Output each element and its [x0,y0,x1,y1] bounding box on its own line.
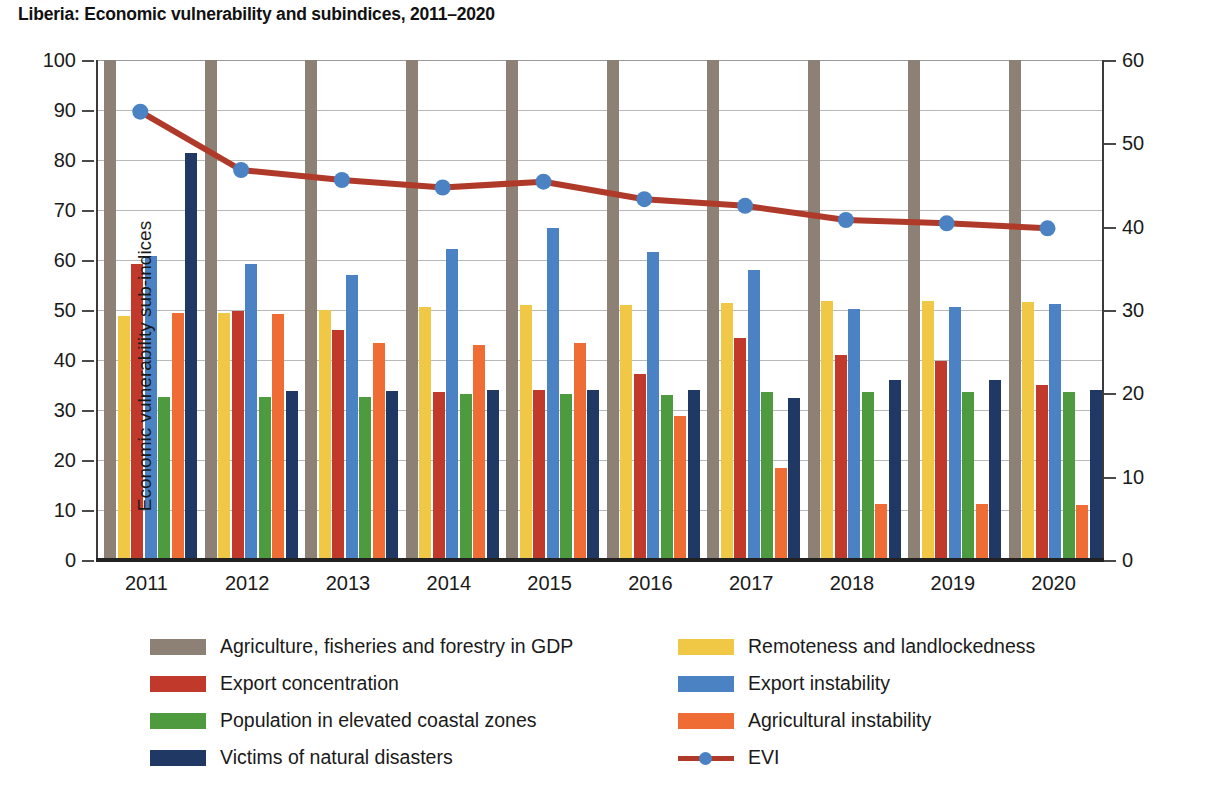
y-axis-tick-label-right: 30 [1122,300,1172,320]
bar [433,392,445,560]
y-axis-tick-label-left: 0 [16,550,76,570]
bar-group [1003,60,1104,560]
bar [460,394,472,560]
y-axis-tick-label-right: 40 [1122,217,1172,237]
bar [962,392,974,561]
y-axis-tick-label-left: 50 [16,300,76,320]
bar [688,390,700,560]
bar [185,153,197,560]
bar [419,307,431,561]
bar [835,355,847,561]
x-axis-tick-label: 2012 [197,572,298,608]
bar [158,397,170,560]
legend-label: Export concentration [220,672,399,695]
bar [1076,505,1088,561]
legend-label: Victims of natural disasters [220,746,453,769]
bar [386,391,398,561]
legend-label: Agriculture, fisheries and forestry in G… [220,635,573,658]
bar-group [802,60,903,560]
bar [634,374,646,561]
bar [674,416,686,560]
bar [1049,304,1061,561]
bar [232,311,244,561]
bar [286,391,298,561]
bar [305,60,317,560]
legend-item[interactable]: Population in elevated coastal zones [150,702,630,739]
bar [1036,385,1048,561]
x-axis-tick-label: 2014 [398,572,499,608]
y-axis-tick-label-right: 60 [1122,50,1172,70]
y-axis-tick-label-left: 20 [16,450,76,470]
bar-group [902,60,1003,560]
bar [259,397,271,560]
y-axis-tick-right [1104,560,1116,562]
plot-inner [98,60,1102,560]
y-axis-tick-left [82,560,94,562]
marker-dot-icon [699,752,712,765]
bar [359,397,371,560]
bar [734,338,746,560]
bar [406,60,418,560]
x-axis-baseline [96,558,1104,562]
x-axis-tick-label: 2011 [96,572,197,608]
bar [205,60,217,560]
legend-item[interactable]: Victims of natural disasters [150,739,630,776]
y-axis-tick-left [82,460,94,462]
bar [935,361,947,560]
bar [473,345,485,560]
legend-item[interactable]: Export instability [678,665,1158,702]
legend-label: Remoteness and landlockedness [748,635,1035,658]
bar [373,343,385,560]
y-axis-tick-right [1104,477,1116,479]
y-axis-tick-left [82,510,94,512]
bar [607,60,619,560]
y-axis-tick-left [82,360,94,362]
bar [748,270,760,561]
bar [560,394,572,560]
bar [976,504,988,560]
bar [775,468,787,560]
bar-group [701,60,802,560]
legend-item[interactable]: EVI [678,739,1158,776]
x-axis-labels: 2011201220132014201520162017201820192020 [96,572,1104,608]
y-axis-tick-label-right: 0 [1122,550,1172,570]
bar [908,60,920,560]
legend-label: EVI [748,746,779,769]
swatch-icon [150,750,206,766]
swatch-icon [678,639,734,655]
x-axis-tick-label: 2013 [298,572,399,608]
swatch-icon [678,676,734,692]
swatch-icon [150,639,206,655]
bar [661,395,673,561]
bar [821,301,833,560]
y-axis-tick-label-left: 80 [16,150,76,170]
legend-label: Population in elevated coastal zones [220,709,537,732]
bar [788,398,800,561]
legend-item[interactable]: Agricultural instability [678,702,1158,739]
swatch-icon [678,713,734,729]
y-axis-tick-right [1104,60,1116,62]
bar-group [601,60,702,560]
legend-item[interactable]: Export concentration [150,665,630,702]
legend-column-left: Agriculture, fisheries and forestry in G… [150,628,630,776]
bar [1022,302,1034,561]
legend-item[interactable]: Agriculture, fisheries and forestry in G… [150,628,630,665]
swatch-icon [150,676,206,692]
swatch-icon [150,713,206,729]
y-axis-tick-left [82,410,94,412]
bar [547,228,559,561]
bar [949,307,961,561]
bar [245,264,257,561]
y-axis-tick-label-right: 10 [1122,467,1172,487]
bar [104,60,116,560]
bar-group [299,60,400,560]
y-axis-tick-label-left: 60 [16,250,76,270]
bar [172,313,184,560]
bar [848,309,860,561]
y-axis-tick-left [82,60,94,62]
bar [1009,60,1021,560]
y-axis-tick-left [82,110,94,112]
page-title: Liberia: Economic vulnerability and subi… [18,4,495,25]
legend-item[interactable]: Remoteness and landlockedness [678,628,1158,665]
y-axis-tick-right [1104,310,1116,312]
